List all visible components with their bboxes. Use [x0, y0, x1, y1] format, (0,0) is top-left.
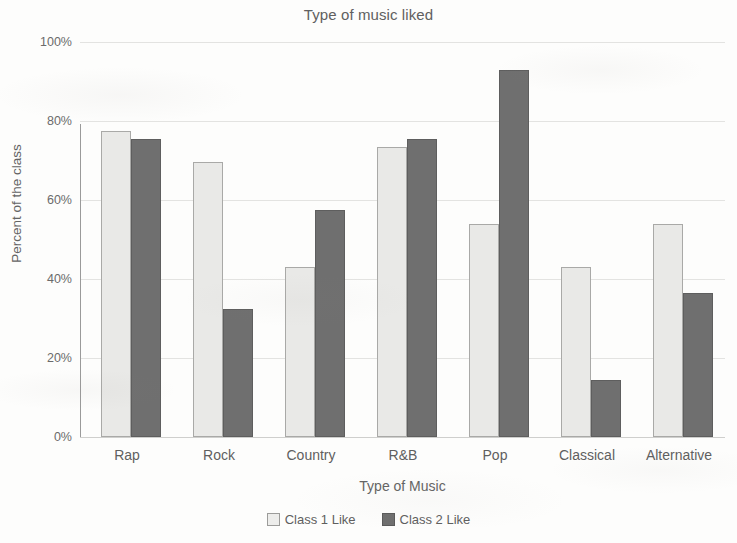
chart-title: Type of music liked: [0, 6, 737, 23]
y-axis-title: Percent of the class: [9, 84, 24, 324]
y-axis-tick-label: 100%: [8, 35, 72, 49]
bar[interactable]: [591, 380, 621, 437]
x-axis-tick-label: Alternative: [633, 447, 725, 471]
bar-group: [541, 42, 633, 437]
bar-chart: Type of music liked 100%80%60%40%20%0% P…: [0, 0, 737, 543]
x-axis-tick-label: Pop: [449, 447, 541, 471]
bar[interactable]: [683, 293, 713, 437]
bar[interactable]: [101, 131, 131, 437]
legend-item[interactable]: Class 1 Like: [267, 512, 356, 527]
bar[interactable]: [285, 267, 315, 437]
bar-group: [633, 42, 725, 437]
bar-groups: [81, 42, 725, 437]
legend-swatch-icon: [382, 513, 395, 526]
chart-legend: Class 1 LikeClass 2 Like: [0, 512, 737, 527]
bar-group: [265, 42, 357, 437]
bar[interactable]: [407, 139, 437, 437]
bar[interactable]: [223, 309, 253, 437]
bar-group: [449, 42, 541, 437]
legend-label: Class 1 Like: [285, 512, 356, 527]
legend-label: Class 2 Like: [400, 512, 471, 527]
x-axis-tick-label: Country: [265, 447, 357, 471]
legend-swatch-icon: [267, 513, 280, 526]
x-axis-tick-label: Rap: [81, 447, 173, 471]
bar[interactable]: [561, 267, 591, 437]
y-axis-tick-label: 20%: [8, 351, 72, 365]
legend-item[interactable]: Class 2 Like: [382, 512, 471, 527]
x-axis-line: [80, 437, 725, 438]
x-axis-tick-labels: RapRockCountryR&BPopClassicalAlternative: [81, 447, 725, 471]
bar[interactable]: [653, 224, 683, 437]
bar[interactable]: [377, 147, 407, 437]
x-axis-tick-label: Classical: [541, 447, 633, 471]
bar[interactable]: [131, 139, 161, 437]
bar-group: [81, 42, 173, 437]
bar[interactable]: [469, 224, 499, 437]
bar-group: [357, 42, 449, 437]
bar-group: [173, 42, 265, 437]
bar[interactable]: [315, 210, 345, 437]
x-axis-title: Type of Music: [80, 478, 725, 494]
x-axis-tick-label: R&B: [357, 447, 449, 471]
bar[interactable]: [193, 162, 223, 437]
x-axis-tick-label: Rock: [173, 447, 265, 471]
y-axis-tick-label: 0%: [8, 430, 72, 444]
bar[interactable]: [499, 70, 529, 437]
